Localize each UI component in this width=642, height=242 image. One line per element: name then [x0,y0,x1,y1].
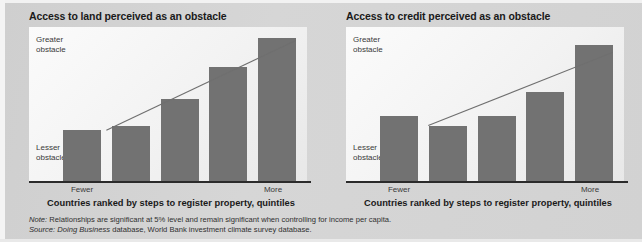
chart-title-credit: Access to credit perceived as an obstacl… [346,10,550,22]
footnotes: Note: Relationships are significant at 5… [29,215,629,234]
source-italic-title: Doing Business [55,225,110,234]
bar-4 [526,92,564,181]
chart-title-land: Access to land perceived as an obstacle [29,10,226,22]
x-axis-line-land [29,181,311,183]
y-axis-bottom-label-land: Lesser obstacle [36,143,66,162]
bar-5-more- [575,45,613,181]
x-tick-fewer-land: Fewer [57,185,107,194]
y-axis-top-label-land: Greater obstacle [36,35,66,54]
x-axis-title-land: Countries ranked by steps to register pr… [25,198,317,208]
x-axis-line-credit [346,181,628,183]
bar-series-credit [380,27,613,181]
x-tick-more-land: More [248,185,298,194]
bar-1-fewer- [380,116,418,181]
source-line: Source: Doing Business database, World B… [29,225,629,235]
x-tick-more-credit: More [565,185,615,194]
bar-4 [209,67,247,181]
source-label: Source: [29,225,55,234]
note-line: Note: Relationships are significant at 5… [29,215,629,225]
y-axis-bottom-label-credit: Lesser obstacle [353,143,383,162]
source-text: database, World Bank investment climate … [110,225,312,234]
x-axis-title-credit: Countries ranked by steps to register pr… [342,198,634,208]
bar-3 [161,99,199,181]
figure-panel: Access to land perceived as an obstacle … [5,3,642,239]
bar-3 [478,116,516,181]
y-axis-top-label-credit: Greater obstacle [353,35,383,54]
note-label: Note: [29,215,47,224]
bar-5-more- [258,38,296,181]
bar-2 [429,126,467,181]
note-text: Relationships are significant at 5% leve… [47,215,391,224]
x-tick-fewer-credit: Fewer [374,185,424,194]
chart-access-to-land: Access to land perceived as an obstacle … [25,3,341,208]
bar-2 [112,126,150,181]
bar-series-land [63,27,296,181]
bar-1-fewer- [63,130,101,181]
chart-access-to-credit: Access to credit perceived as an obstacl… [342,3,642,208]
